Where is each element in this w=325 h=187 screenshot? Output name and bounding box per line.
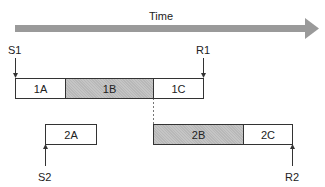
s1-arrow-icon xyxy=(13,58,18,78)
r1-label: R1 xyxy=(196,44,210,56)
segment-2c: 2C xyxy=(243,124,293,145)
segment-2b-label: 2B xyxy=(192,129,205,141)
s1-label: S1 xyxy=(8,44,21,56)
r1-arrow-icon xyxy=(201,58,206,78)
segment-2a-label: 2A xyxy=(64,129,77,141)
segment-2c-label: 2C xyxy=(261,129,275,141)
s2-arrow-icon xyxy=(43,144,48,166)
segment-1c-label: 1C xyxy=(171,83,185,95)
r2-arrow-icon xyxy=(290,144,295,166)
segment-2a: 2A xyxy=(45,124,97,145)
r2-label: R2 xyxy=(285,171,299,183)
segment-1b-label: 1B xyxy=(103,83,116,95)
segment-1a: 1A xyxy=(15,78,66,99)
s2-label: S2 xyxy=(38,171,51,183)
segment-1a-label: 1A xyxy=(34,83,47,95)
segment-1b: 1B xyxy=(65,78,154,99)
time-label: Time xyxy=(149,10,173,22)
segment-2b: 2B xyxy=(153,124,244,145)
segment-1c: 1C xyxy=(153,78,204,99)
